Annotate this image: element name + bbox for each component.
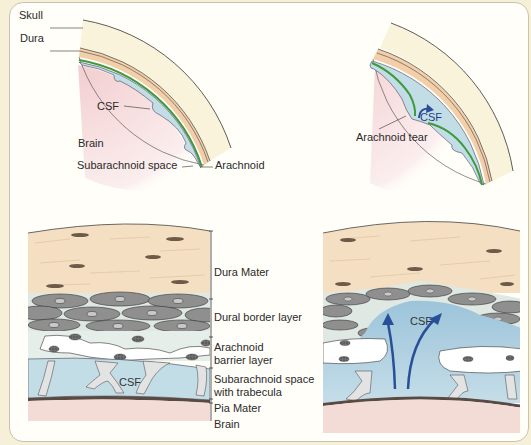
label-arachnoid-barrier-l2: barrier layer xyxy=(214,354,273,367)
label-csf-bottom-right: CSF xyxy=(410,315,432,328)
label-csf-top-left: CSF xyxy=(97,100,119,113)
label-dural-border-layer: Dural border layer xyxy=(214,311,302,324)
label-arachnoid-tear: Arachnoid tear xyxy=(356,131,428,144)
label-csf-top-right: CSF xyxy=(420,111,442,124)
normal-layers-histology xyxy=(18,213,225,421)
label-dura: Dura xyxy=(20,32,44,45)
label-csf-bottom-left: CSF xyxy=(119,376,141,389)
label-subarachnoid-space: Subarachnoid space xyxy=(77,159,177,172)
label-pia-mater: Pia Mater xyxy=(214,402,261,415)
label-brain-top-left: Brain xyxy=(78,137,104,150)
label-dura-mater: Dura Mater xyxy=(214,266,269,279)
label-subarachnoid-l1: Subarachnoid space xyxy=(214,373,314,386)
figure-panel: Skull Dura CSF Brain Subarachnoid space … xyxy=(9,2,529,442)
label-skull: Skull xyxy=(19,9,43,22)
label-arachnoid: Arachnoid xyxy=(215,159,265,172)
label-arachnoid-barrier-l1: Arachnoid xyxy=(214,341,264,354)
label-brain-bottom: Brain xyxy=(214,418,240,431)
label-subarachnoid-l2: with trabecula xyxy=(214,386,282,399)
